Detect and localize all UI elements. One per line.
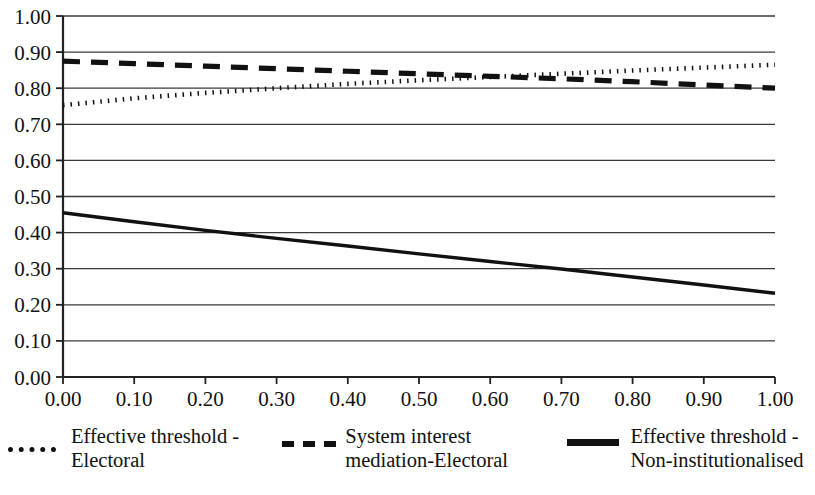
- x-tick-labels: 0.000.100.200.300.400.500.600.700.800.90…: [45, 387, 794, 411]
- y-tick-label: 0.20: [14, 293, 51, 317]
- y-tick-label: 0.60: [14, 149, 51, 173]
- x-tick-label: 0.50: [401, 387, 438, 411]
- dashed-line-sample-icon: [282, 425, 336, 459]
- solid-line-sample-icon: [567, 425, 621, 459]
- y-tick-labels: 0.000.100.200.300.400.500.600.700.800.90…: [14, 5, 51, 390]
- legend-label: Effective threshold - Electoral: [71, 425, 239, 473]
- y-tick-label: 0.70: [14, 113, 51, 137]
- x-tick-label: 0.30: [258, 387, 295, 411]
- line-chart-figure: 0.000.100.200.300.400.500.600.700.800.90…: [0, 0, 815, 495]
- x-tick-label: 0.60: [472, 387, 509, 411]
- x-tick-label: 0.40: [329, 387, 366, 411]
- x-tick-label: 0.70: [543, 387, 580, 411]
- series-line-1: [63, 65, 775, 105]
- y-tick-label: 1.00: [14, 5, 51, 29]
- x-tick-label: 0.80: [614, 387, 651, 411]
- legend-label: Effective threshold - Non-institutionali…: [630, 425, 803, 473]
- chart-svg: 0.000.100.200.300.400.500.600.700.800.90…: [0, 0, 815, 420]
- y-tick-label: 0.40: [14, 221, 51, 245]
- y-tick-label: 0.00: [14, 366, 51, 390]
- chart-legend: Effective threshold - Electoral System i…: [0, 425, 815, 495]
- y-tick-label: 0.50: [14, 185, 51, 209]
- legend-label: System interest mediation-Electoral: [345, 425, 508, 473]
- gridlines: [63, 16, 775, 341]
- y-tick-label: 0.90: [14, 41, 51, 65]
- x-tick-label: 0.90: [685, 387, 722, 411]
- plot-area: 0.000.100.200.300.400.500.600.700.800.90…: [0, 0, 815, 420]
- x-tick-label: 1.00: [757, 387, 794, 411]
- y-tick-label: 0.10: [14, 329, 51, 353]
- legend-item-effective-threshold-electoral: Effective threshold - Electoral: [0, 425, 282, 473]
- data-series-group: [63, 61, 775, 293]
- x-tick-label: 0.10: [116, 387, 153, 411]
- series-line-2: [63, 61, 775, 88]
- series-line-3: [63, 213, 775, 294]
- y-tick-label: 0.80: [14, 77, 51, 101]
- x-tick-label: 0.20: [187, 387, 224, 411]
- y-tick-label: 0.30: [14, 257, 51, 281]
- x-tick-label: 0.00: [45, 387, 82, 411]
- legend-item-system-interest-mediation-electoral: System interest mediation-Electoral: [282, 425, 567, 473]
- legend-item-effective-threshold-non-institutionalised: Effective threshold - Non-institutionali…: [567, 425, 815, 473]
- dotted-line-sample-icon: [8, 425, 62, 459]
